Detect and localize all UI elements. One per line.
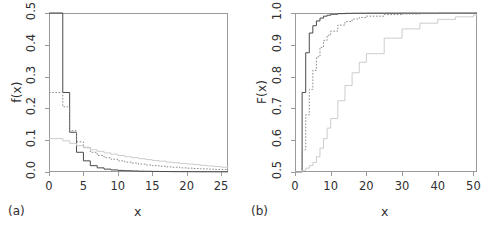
x-tickmark bbox=[118, 172, 119, 176]
x-tickmark bbox=[83, 172, 84, 176]
y-tickmark bbox=[45, 140, 49, 141]
x-tick-label: 25 bbox=[206, 179, 236, 193]
y-tickmark bbox=[291, 13, 295, 14]
y-tickmark bbox=[291, 172, 295, 173]
x-tick-label: 30 bbox=[387, 179, 417, 193]
y-tick-label: 0.3 bbox=[19, 68, 43, 82]
x-tickmark bbox=[221, 172, 222, 176]
figure-container: x f(x) (a) 05101520250.00.10.20.30.40.5 … bbox=[0, 0, 491, 231]
x-tickmark bbox=[438, 172, 439, 176]
x-tickmark bbox=[295, 172, 296, 176]
x-axis-label-b: x bbox=[381, 204, 389, 219]
x-tick-label: 0 bbox=[34, 179, 64, 193]
x-tickmark bbox=[187, 172, 188, 176]
x-tickmark bbox=[152, 172, 153, 176]
x-tick-label: 50 bbox=[458, 179, 488, 193]
y-tickmark bbox=[45, 45, 49, 46]
y-tick-label: 0.8 bbox=[265, 68, 289, 82]
x-tick-label: 20 bbox=[172, 179, 202, 193]
panel-a: x f(x) (a) 05101520250.00.10.20.30.40.5 bbox=[0, 0, 245, 231]
y-tick-label: 0.0 bbox=[19, 163, 43, 177]
y-tickmark bbox=[45, 13, 49, 14]
x-tickmark bbox=[49, 172, 50, 176]
x-axis-label-a: x bbox=[134, 204, 142, 219]
x-tick-label: 10 bbox=[103, 179, 133, 193]
panel-b: x F(x) (b) 010203040500.50.60.70.80.91.0 bbox=[245, 0, 491, 231]
x-tick-label: 5 bbox=[68, 179, 98, 193]
y-tickmark bbox=[291, 77, 295, 78]
y-tickmark bbox=[45, 108, 49, 109]
panel-tag-a: (a) bbox=[8, 204, 25, 218]
y-tickmark bbox=[45, 77, 49, 78]
curve-series_3 bbox=[295, 15, 477, 172]
y-tick-label: 0.7 bbox=[265, 99, 289, 113]
y-tick-label: 0.6 bbox=[265, 131, 289, 145]
y-tick-label: 0.1 bbox=[19, 131, 43, 145]
y-tick-label: 0.9 bbox=[265, 36, 289, 50]
y-tick-label: 0.4 bbox=[19, 36, 43, 50]
x-tick-label: 40 bbox=[423, 179, 453, 193]
panel-tag-b: (b) bbox=[251, 204, 268, 218]
x-tick-label: 0 bbox=[280, 179, 310, 193]
y-tickmark bbox=[291, 45, 295, 46]
y-tick-label: 0.5 bbox=[19, 4, 43, 18]
x-tickmark bbox=[366, 172, 367, 176]
y-tick-label: 0.5 bbox=[265, 163, 289, 177]
curve-series_1 bbox=[49, 13, 228, 172]
y-tickmark bbox=[291, 108, 295, 109]
x-tick-label: 20 bbox=[351, 179, 381, 193]
y-tick-label: 1.0 bbox=[265, 4, 289, 18]
y-tick-label: 0.2 bbox=[19, 99, 43, 113]
x-tickmark bbox=[331, 172, 332, 176]
x-tickmark bbox=[402, 172, 403, 176]
x-tick-label: 10 bbox=[316, 179, 346, 193]
y-tickmark bbox=[291, 140, 295, 141]
x-tickmark bbox=[473, 172, 474, 176]
y-tickmark bbox=[45, 172, 49, 173]
x-tick-label: 15 bbox=[137, 179, 167, 193]
